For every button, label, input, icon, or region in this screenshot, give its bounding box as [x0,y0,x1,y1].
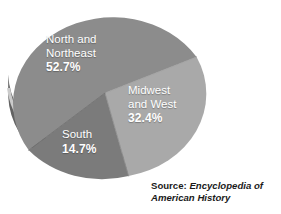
pie-chart-figure: North and Northeast 52.7% Midwest and We… [0,0,281,214]
source-title-line-2: American History [151,192,230,203]
source-prefix: Source: [151,180,189,191]
source-title-line-1: Encyclopedia of [189,180,263,191]
pie-top-face [13,17,206,179]
source-attribution: Source: Encyclopedia of American History [151,180,277,205]
